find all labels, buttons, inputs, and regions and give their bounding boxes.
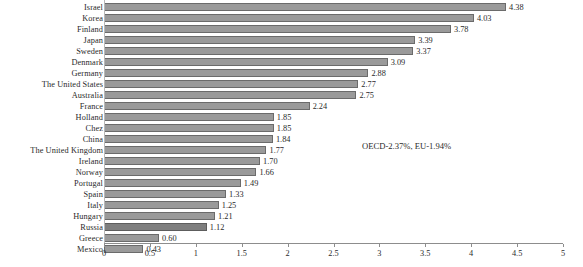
chart-row: The United States2.77 [0, 79, 583, 90]
bar [104, 245, 143, 253]
value-label: 4.03 [477, 13, 492, 24]
chart-row: Ireland1.70 [0, 156, 583, 167]
category-label: Australia [0, 90, 103, 101]
category-label: Greece [0, 233, 103, 244]
value-label: 2.88 [371, 68, 386, 79]
value-label: 1.84 [276, 134, 291, 145]
x-tick-label: 0 [102, 248, 106, 259]
value-label: 1.77 [269, 145, 284, 156]
x-tick-label: 0.5 [145, 248, 155, 259]
chart-row: Spain1.33 [0, 189, 583, 200]
chart-row: Italy1.25 [0, 200, 583, 211]
x-tick-label: 1.5 [237, 248, 247, 259]
chart-row: France2.24 [0, 101, 583, 112]
value-label: 1.21 [218, 211, 233, 222]
chart-row: Israel4.38 [0, 2, 583, 13]
chart-row: The United Kingdom1.77 [0, 145, 583, 156]
category-label: Holland [0, 112, 103, 123]
bar [104, 113, 274, 121]
value-label: 2.75 [359, 90, 374, 101]
bar [104, 201, 219, 209]
x-tick-label: 5 [561, 248, 565, 259]
value-label: 1.85 [277, 112, 292, 123]
category-label: Ireland [0, 156, 103, 167]
bar [104, 3, 506, 11]
value-label: 1.85 [277, 123, 292, 134]
x-tick [196, 244, 197, 247]
bar [104, 25, 451, 33]
category-label: Israel [0, 2, 103, 13]
x-tick-label: 4 [469, 248, 473, 259]
category-label: Chez [0, 123, 103, 134]
bar [104, 91, 356, 99]
chart-row: Australia2.75 [0, 90, 583, 101]
category-label: Hungary [0, 211, 103, 222]
category-label: Mexico [0, 244, 103, 255]
chart-row: Chez1.85 [0, 123, 583, 134]
category-label: Russia [0, 222, 103, 233]
category-label: Korea [0, 13, 103, 24]
plot-area: Israel4.38Korea4.03Finland3.78Japan3.39S… [0, 0, 583, 267]
bar [104, 102, 310, 110]
bar [104, 135, 273, 143]
chart-row: Portugal1.49 [0, 178, 583, 189]
x-tick [425, 244, 426, 247]
x-tick-label: 2 [286, 248, 290, 259]
category-label: The United Kingdom [0, 145, 103, 156]
category-label: China [0, 134, 103, 145]
bar [104, 36, 415, 44]
bar [104, 157, 260, 165]
category-label: Japan [0, 35, 103, 46]
bar [104, 124, 274, 132]
bar [104, 212, 215, 220]
x-tick [334, 244, 335, 247]
category-label: France [0, 101, 103, 112]
value-label: 0.60 [162, 233, 177, 244]
category-label: Sweden [0, 46, 103, 57]
chart-row: Finland3.78 [0, 24, 583, 35]
chart-row: Mexico0.43 [0, 244, 583, 255]
category-label: Norway [0, 167, 103, 178]
x-tick-label: 3 [377, 248, 381, 259]
bar [104, 146, 266, 154]
value-label: 4.38 [509, 2, 524, 13]
value-label: 1.25 [222, 200, 237, 211]
category-label: Finland [0, 24, 103, 35]
value-label: 3.09 [391, 57, 406, 68]
value-label: 1.66 [259, 167, 274, 178]
value-label: 2.77 [361, 79, 376, 90]
x-tick-label: 4.5 [512, 248, 522, 259]
chart-row: Korea4.03 [0, 13, 583, 24]
value-label: 1.49 [244, 178, 259, 189]
x-tick-label: 2.5 [328, 248, 338, 259]
bar [104, 69, 368, 77]
y-axis-line [104, 0, 105, 243]
value-label: 3.37 [416, 46, 431, 57]
chart-row: Germany2.88 [0, 68, 583, 79]
chart-row: Denmark3.09 [0, 57, 583, 68]
category-label: Germany [0, 68, 103, 79]
x-tick [104, 244, 105, 247]
chart-row: Russia1.12 [0, 222, 583, 233]
chart-row: Holland1.85 [0, 112, 583, 123]
bar [104, 190, 226, 198]
bar [104, 14, 474, 22]
chart-row: Sweden3.37 [0, 46, 583, 57]
value-label: 3.78 [454, 24, 469, 35]
bar [104, 58, 388, 66]
category-label: Spain [0, 189, 103, 200]
chart-row: China1.84 [0, 134, 583, 145]
chart-annotation: OECD-2.37%, EU-1.94% [362, 141, 451, 152]
x-tick [563, 244, 564, 247]
x-tick-label: 1 [194, 248, 198, 259]
bar [104, 223, 207, 231]
x-tick [242, 244, 243, 247]
chart-row: Norway1.66 [0, 167, 583, 178]
bar [104, 168, 256, 176]
value-label: 3.39 [418, 35, 433, 46]
value-label: 1.12 [210, 222, 225, 233]
bar [104, 179, 241, 187]
x-tick [379, 244, 380, 247]
x-tick [517, 244, 518, 247]
category-label: Portugal [0, 178, 103, 189]
